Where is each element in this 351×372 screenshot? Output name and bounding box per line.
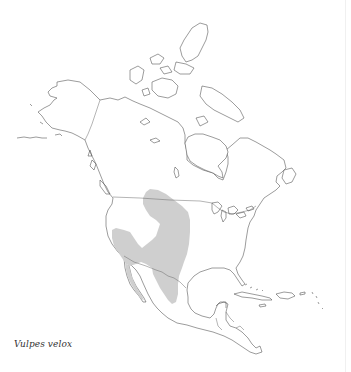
lesser-antilles bbox=[312, 292, 323, 309]
southampton-island bbox=[196, 116, 208, 126]
north-america-map bbox=[0, 0, 351, 372]
jamaica bbox=[259, 304, 266, 307]
hispaniola bbox=[276, 292, 295, 299]
victoria-island bbox=[152, 78, 178, 98]
baffin-island bbox=[200, 86, 244, 122]
page-edge-line bbox=[345, 0, 346, 372]
puerto-rico bbox=[300, 292, 305, 295]
species-name-label: Vulpes velox bbox=[14, 339, 72, 349]
ellesmere-island bbox=[180, 23, 208, 62]
devon-island bbox=[174, 62, 194, 74]
bahamas bbox=[245, 284, 263, 291]
newfoundland bbox=[282, 168, 296, 184]
range-map: Vulpes velox bbox=[0, 0, 351, 372]
cuba bbox=[234, 292, 272, 300]
banks-island bbox=[130, 66, 144, 84]
